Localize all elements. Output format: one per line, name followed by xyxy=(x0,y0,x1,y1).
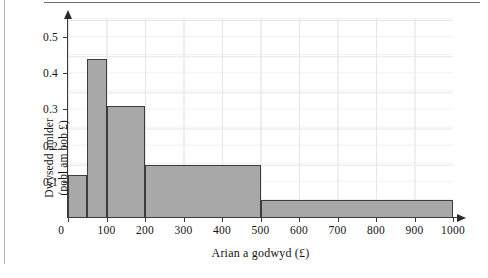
x-tick-label: 400 xyxy=(213,224,231,236)
plot-area: 1002003004005006007008009001000 0.10.20.… xyxy=(68,18,453,218)
x-tick-label: 500 xyxy=(252,224,270,236)
x-tick-label: 600 xyxy=(290,224,308,236)
x-tick-label: 900 xyxy=(406,224,424,236)
y-tick-mark xyxy=(63,73,68,74)
x-tick-label: 700 xyxy=(329,224,347,236)
y-tick-label: 0.3 xyxy=(43,103,58,115)
histogram-bar xyxy=(68,175,87,218)
y-tick-mark xyxy=(63,109,68,110)
x-tick-label: 200 xyxy=(136,224,154,236)
x-axis-arrow-icon xyxy=(457,214,466,222)
x-tick-mark xyxy=(453,217,454,222)
page-top-rule xyxy=(44,2,480,3)
x-tick-label: 100 xyxy=(98,224,116,236)
histogram-bar xyxy=(107,106,146,218)
histogram-bar xyxy=(87,59,106,218)
y-tick-label: 0.4 xyxy=(43,67,58,79)
histogram-bar xyxy=(145,165,261,218)
x-tick-label: 300 xyxy=(175,224,193,236)
y-tick-label: 0.5 xyxy=(43,31,58,43)
x-tick-label: 1000 xyxy=(441,224,465,236)
x-tick-label-origin: 0 xyxy=(58,224,64,236)
y-axis-arrow-icon xyxy=(64,10,72,19)
chart-page: 1002003004005006007008009001000 0.10.20.… xyxy=(0,0,488,278)
histogram-bar xyxy=(261,200,454,218)
x-tick-label: 800 xyxy=(367,224,385,236)
y-axis-title-line1: Dwysedd amlder xyxy=(43,118,57,198)
x-axis-title: Arian a godwyd (£) xyxy=(68,246,453,261)
y-axis-title: Dwysedd amlder (pobl am bob £) xyxy=(43,118,70,198)
page-left-rule xyxy=(4,0,5,264)
y-tick-mark xyxy=(63,37,68,38)
